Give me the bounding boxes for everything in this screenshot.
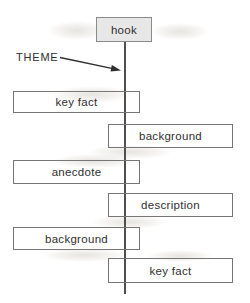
scan-smudge [151,23,209,40]
box-key-fact-2-label: key fact [149,265,191,277]
diagram-canvas: hook THEME key fact background anecdote … [0,0,250,303]
box-background-2: background [13,227,140,250]
hook-box-label: hook [111,24,137,36]
box-background-1: background [108,124,233,148]
box-background-2-label: background [45,233,108,245]
theme-label: THEME [16,51,59,63]
hook-box: hook [96,17,152,42]
box-key-fact-2: key fact [108,258,233,283]
box-anecdote: anecdote [13,160,140,184]
box-key-fact-1-label: key fact [55,96,97,108]
box-description-label: description [141,199,200,211]
box-background-1-label: background [139,130,202,142]
box-description: description [108,193,233,217]
box-key-fact-1: key fact [13,91,140,113]
theme-arrow-icon [55,50,127,76]
box-anecdote-label: anecdote [52,166,102,178]
